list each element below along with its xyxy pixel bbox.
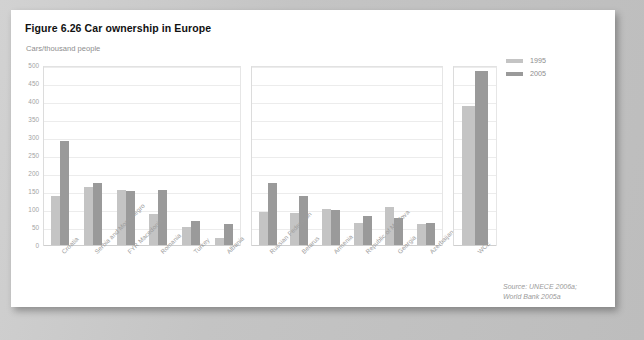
bar-2005 xyxy=(268,183,277,245)
legend-label: 1995 xyxy=(530,56,546,65)
bar-group xyxy=(84,66,102,245)
y-axis-tick-label: 300 xyxy=(17,135,39,141)
y-axis-tick-label: 0 xyxy=(17,243,39,249)
legend-swatch xyxy=(506,59,523,63)
bar-1995 xyxy=(215,238,224,245)
bar-1995 xyxy=(354,223,363,245)
bar-group-row xyxy=(454,66,496,245)
legend-item: 1995 xyxy=(506,54,546,67)
bar-group xyxy=(51,66,69,245)
chart-panel xyxy=(43,66,241,246)
y-axis-tick-label: 500 xyxy=(17,63,39,69)
chart-panel xyxy=(453,66,497,246)
chart-panel xyxy=(251,66,443,246)
page-background: Figure 6.26 Car ownership in Europe Cars… xyxy=(0,0,644,340)
y-axis-tick-label: 400 xyxy=(17,99,39,105)
bar-2005 xyxy=(60,141,69,245)
bar-1995 xyxy=(462,106,475,245)
figure-card: Figure 6.26 Car ownership in Europe Cars… xyxy=(11,10,615,307)
source-note: Source: UNECE 2006a; World Bank 2005a xyxy=(503,282,577,302)
bar-group-row xyxy=(252,66,442,245)
bar-2005 xyxy=(363,216,372,245)
bar-group xyxy=(462,66,488,245)
bar-group xyxy=(322,66,340,245)
bar-2005 xyxy=(93,183,102,245)
y-axis-tick-label: 250 xyxy=(17,153,39,159)
bar-group xyxy=(215,66,233,245)
y-axis-tick-label: 350 xyxy=(17,117,39,123)
bar-group xyxy=(417,66,435,245)
bar-2005 xyxy=(191,221,200,245)
bar-group-row xyxy=(44,66,240,245)
source-line-1: Source: UNECE 2006a; xyxy=(503,282,577,292)
legend-swatch xyxy=(506,72,523,76)
legend-label: 2005 xyxy=(530,69,546,78)
bar-group xyxy=(354,66,372,245)
legend-item: 2005 xyxy=(506,67,546,80)
bar-1995 xyxy=(51,196,60,245)
y-axis-tick-label: 100 xyxy=(17,207,39,213)
bar-2005 xyxy=(331,210,340,245)
chart-legend: 19952005 xyxy=(506,54,546,80)
bar-1995 xyxy=(84,187,93,245)
y-axis-tick-label: 450 xyxy=(17,81,39,87)
source-line-2: World Bank 2005a xyxy=(503,292,577,302)
bar-group xyxy=(182,66,200,245)
bar-2005 xyxy=(475,71,488,245)
bar-1995 xyxy=(182,227,191,245)
bar-1995 xyxy=(417,224,426,245)
y-axis-tick-label: 50 xyxy=(17,225,39,231)
y-axis-tick-label: 150 xyxy=(17,189,39,195)
y-axis-tick-label: 200 xyxy=(17,171,39,177)
bar-group xyxy=(259,66,277,245)
bar-1995 xyxy=(322,209,331,245)
bar-2005 xyxy=(426,223,435,245)
bar-1995 xyxy=(259,212,268,245)
